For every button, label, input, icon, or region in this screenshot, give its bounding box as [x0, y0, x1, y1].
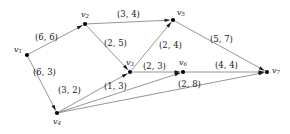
edge-label-v5-to-v7: (5, 7): [210, 35, 233, 44]
edge-label-v2-to-v5: (3, 4): [117, 10, 140, 19]
node-label-subscript-v7: 7: [277, 69, 281, 75]
edge-label-v4-to-v6: (2, 8): [178, 80, 201, 89]
arrowhead-v5-to-v7: [259, 66, 265, 70]
edge-label-v1-to-v2: (6, 6): [35, 33, 58, 42]
node-label-subscript-v2: 2: [86, 13, 90, 19]
node-v4: [55, 111, 59, 115]
edge-v2-to-v5: [87, 20, 166, 24]
arrowhead-v4-to-v6: [174, 73, 180, 77]
node-label-v5: v5: [177, 9, 185, 17]
node-v2: [83, 22, 87, 26]
node-label-v3: v3: [126, 59, 134, 67]
edge-label-v4-to-v7: (3, 2): [58, 86, 81, 95]
node-label-subscript-v5: 5: [182, 11, 186, 17]
arrowhead-v1-to-v4: [52, 105, 56, 111]
arrowhead-v2-to-v5: [164, 19, 170, 22]
node-label-subscript-v4: 4: [58, 120, 62, 126]
node-label-v2: v2: [81, 11, 89, 19]
edge-label-v3-to-v6: (2, 3): [143, 62, 166, 71]
node-v7: [265, 70, 269, 74]
edge-label-v6-to-v7: (4, 4): [215, 61, 238, 70]
node-label-v7: v7: [272, 67, 280, 75]
edge-label-v4-to-v3: (1, 3): [104, 82, 127, 91]
node-label-v1: v1: [14, 46, 22, 54]
node-v3: [128, 70, 132, 74]
arrowhead-v4-to-v3: [122, 73, 128, 78]
node-label-subscript-v3: 3: [131, 61, 135, 67]
node-v1: [25, 53, 29, 57]
graph-figure: v1v2v3v4v5v6v7(6, 6)(6, 3)(3, 4)(2, 5)(2…: [0, 0, 290, 134]
edge-v1-to-v4: [28, 57, 54, 107]
node-label-subscript-v6: 6: [184, 61, 188, 67]
node-label-v6: v6: [179, 59, 187, 67]
node-v6: [181, 70, 185, 74]
node-v5: [171, 18, 175, 22]
arrowhead-v1-to-v2: [77, 25, 83, 29]
edge-label-v1-to-v4: (6, 3): [33, 68, 56, 77]
edge-label-v3-to-v5: (2, 4): [159, 41, 182, 50]
node-label-subscript-v1: 1: [19, 48, 23, 54]
node-label-v4: v4: [53, 118, 61, 126]
edge-label-v2-to-v3: (2, 5): [104, 39, 127, 48]
